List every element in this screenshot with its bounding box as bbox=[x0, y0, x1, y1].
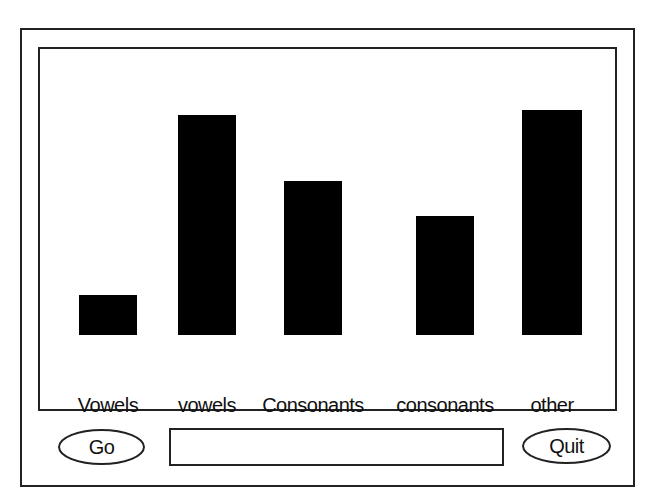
quit-button[interactable]: Quit bbox=[522, 428, 611, 464]
go-button[interactable]: Go bbox=[58, 429, 145, 465]
bar-vowels-upper bbox=[79, 295, 137, 335]
bar-consonants-upper bbox=[284, 181, 342, 335]
bar-consonants-lower bbox=[416, 216, 474, 335]
bar-label-other: other bbox=[482, 394, 622, 417]
bar-other bbox=[522, 110, 582, 335]
bar-chart-panel: Vowels vowels Consonants consonants othe… bbox=[38, 47, 617, 411]
text-input-field[interactable] bbox=[169, 428, 504, 466]
bar-label-consonants-upper: Consonants bbox=[243, 394, 383, 417]
bar-vowels-lower bbox=[178, 115, 236, 335]
